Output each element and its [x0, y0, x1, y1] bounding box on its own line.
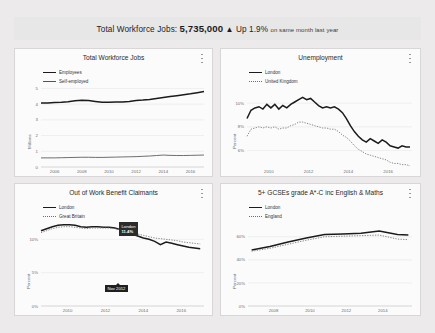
svg-text:2014: 2014	[378, 308, 388, 313]
info-icon[interactable]	[407, 189, 413, 198]
plot-area: 012345200620082010201220142016	[41, 79, 204, 167]
svg-text:2006: 2006	[50, 169, 60, 174]
svg-text:3: 3	[36, 117, 39, 122]
dashboard-root: Total Workforce Jobs: 5,735,000 ▲ Up 1.9…	[0, 0, 435, 333]
legend-swatch-icon	[249, 81, 262, 82]
chart-legend: London United Kingdom	[249, 69, 298, 86]
headline-change: Up 1.9%	[236, 25, 268, 34]
svg-text:2012: 2012	[131, 169, 141, 174]
svg-text:5%: 5%	[32, 270, 38, 275]
y-axis-title: Percent	[232, 134, 237, 149]
y-axis-title: Millions	[27, 134, 32, 149]
headline-banner: Total Workforce Jobs: 5,735,000 ▲ Up 1.9…	[14, 17, 421, 40]
svg-text:2012: 2012	[101, 308, 111, 313]
headline-text: Total Workforce Jobs: 5,735,000 ▲ Up 1.9…	[97, 23, 339, 34]
svg-text:5: 5	[36, 86, 39, 91]
svg-text:60%: 60%	[236, 234, 245, 239]
svg-text:10%: 10%	[235, 101, 244, 106]
plot-area: 6%8%10%2010201220142016	[247, 89, 412, 167]
panel-total-workforce-jobs[interactable]: Total Workforce Jobs Employees Self-empl…	[14, 48, 213, 177]
panel-title: Total Workforce Jobs	[15, 54, 212, 61]
tooltip-value: 11.4%	[122, 229, 136, 234]
svg-text:10%: 10%	[29, 237, 38, 242]
legend-swatch-icon	[43, 207, 56, 208]
info-icon[interactable]	[407, 54, 413, 63]
svg-text:0%: 0%	[239, 304, 245, 309]
headline-label: Total Workforce Jobs:	[97, 25, 178, 34]
x-axis-tooltip: Nov 2012	[105, 285, 128, 292]
legend-item: London	[249, 69, 298, 76]
svg-text:2008: 2008	[77, 169, 87, 174]
legend-label: London	[265, 205, 280, 210]
legend-item: London	[43, 204, 85, 211]
svg-text:2014: 2014	[139, 308, 149, 313]
legend-swatch-icon	[249, 207, 262, 208]
up-arrow-icon: ▲	[226, 25, 234, 34]
svg-text:2010: 2010	[264, 169, 274, 174]
legend-label: Employees	[59, 70, 82, 75]
panel-gcse-attainment[interactable]: 5+ GCSEs grade A*-C inc English & Maths …	[220, 183, 421, 316]
svg-text:2012: 2012	[304, 169, 314, 174]
svg-text:8%: 8%	[238, 124, 244, 129]
svg-text:2010: 2010	[104, 169, 114, 174]
plot-area: 0%20%40%60%2008201020122014	[248, 216, 412, 306]
panel-title: 5+ GCSEs grade A*-C inc English & Maths	[221, 189, 420, 196]
svg-text:2012: 2012	[342, 308, 352, 313]
svg-text:2014: 2014	[158, 169, 168, 174]
headline-value: 5,735,000	[180, 23, 224, 34]
tooltip-series-label: London	[122, 224, 136, 229]
svg-text:2010: 2010	[305, 308, 315, 313]
panel-unemployment[interactable]: Unemployment London United Kingdom Perce…	[220, 48, 421, 177]
svg-text:2016: 2016	[176, 308, 186, 313]
svg-text:1: 1	[36, 149, 39, 154]
panel-title: Out of Work Benefit Claimants	[15, 189, 212, 196]
svg-text:0%: 0%	[32, 304, 38, 309]
legend-swatch-icon	[249, 72, 262, 73]
legend-label: London	[59, 205, 74, 210]
svg-text:2: 2	[36, 133, 39, 138]
headline-suffix: on same month last year	[270, 27, 338, 33]
info-icon[interactable]	[199, 189, 205, 198]
panel-title: Unemployment	[221, 54, 420, 61]
legend-item: United Kingdom	[249, 78, 298, 85]
legend-item: London	[249, 204, 282, 211]
x-axis-tooltip-caret	[116, 283, 120, 285]
panel-out-of-work-benefit-claimants[interactable]: Out of Work Benefit Claimants London Gre…	[14, 183, 213, 316]
svg-text:0: 0	[36, 165, 39, 170]
svg-text:2008: 2008	[269, 308, 279, 313]
y-axis-title: Percent	[26, 274, 31, 289]
legend-swatch-icon	[43, 72, 56, 73]
svg-text:20%: 20%	[236, 281, 245, 286]
svg-text:2016: 2016	[383, 169, 393, 174]
svg-text:6%: 6%	[238, 148, 244, 153]
svg-text:2010: 2010	[63, 308, 73, 313]
data-point-tooltip: London 11.4%	[119, 222, 138, 236]
svg-text:2016: 2016	[186, 169, 196, 174]
legend-label: London	[265, 70, 280, 75]
info-icon[interactable]	[199, 54, 205, 63]
legend-label: United Kingdom	[265, 79, 298, 84]
legend-item: Employees	[43, 69, 88, 76]
svg-text:2014: 2014	[344, 169, 354, 174]
svg-text:40%: 40%	[236, 257, 245, 262]
svg-text:4: 4	[36, 102, 39, 107]
